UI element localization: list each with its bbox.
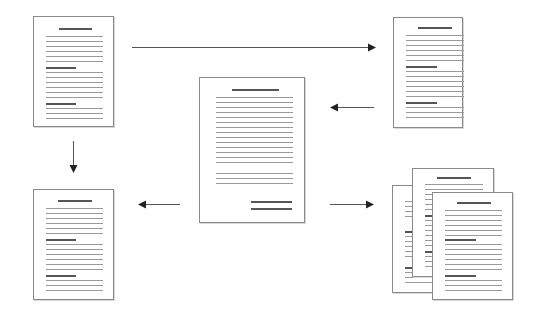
text-line — [46, 213, 103, 214]
text-line — [445, 230, 502, 231]
text-line — [216, 122, 293, 123]
text-line — [46, 233, 103, 234]
text-line — [406, 55, 464, 56]
text-line — [46, 97, 103, 98]
text-line — [46, 113, 103, 114]
text-line — [216, 97, 293, 98]
text-line — [46, 108, 103, 109]
text-line — [406, 117, 464, 118]
text-line — [46, 87, 103, 88]
text-line — [425, 189, 483, 190]
text-line — [406, 35, 464, 36]
document-top-right — [393, 17, 463, 128]
text-line — [216, 137, 293, 138]
text-line — [445, 220, 502, 221]
text-line — [46, 259, 103, 260]
document-top-left — [33, 16, 114, 127]
section-heading-line — [46, 275, 76, 277]
text-line — [216, 173, 293, 174]
text-line — [406, 81, 464, 82]
text-line — [46, 249, 103, 250]
text-line — [216, 132, 293, 133]
text-line — [406, 76, 464, 77]
text-line — [216, 117, 293, 118]
section-heading-line — [445, 239, 476, 241]
document-bottom-left — [33, 189, 114, 300]
text-line — [406, 107, 464, 108]
text-line — [46, 244, 103, 245]
text-line — [46, 285, 103, 286]
doc-title-line — [418, 27, 452, 29]
text-line — [216, 127, 293, 128]
text-line — [406, 45, 464, 46]
text-line — [46, 82, 103, 83]
text-line — [406, 86, 464, 87]
text-line — [46, 36, 103, 37]
text-line — [406, 40, 464, 41]
section-heading-line — [406, 66, 437, 68]
section-heading-line — [46, 239, 76, 241]
arrow-center-to-bottom-left — [136, 199, 182, 210]
arrow-top-left-to-bottom-left — [68, 139, 79, 175]
text-line — [216, 152, 293, 153]
text-line — [445, 264, 502, 265]
text-line — [46, 77, 103, 78]
text-line — [46, 208, 103, 209]
section-heading-line — [46, 67, 76, 69]
text-line — [216, 147, 293, 148]
text-line — [216, 107, 293, 108]
text-line — [216, 162, 293, 163]
text-line — [406, 50, 464, 51]
text-line — [46, 118, 103, 119]
text-line — [216, 178, 293, 179]
doc-title-line — [59, 28, 92, 30]
text-line — [46, 72, 103, 73]
text-line — [46, 269, 103, 270]
text-line — [46, 280, 103, 281]
text-line — [445, 259, 502, 260]
text-line — [216, 102, 293, 103]
text-line — [46, 218, 103, 219]
text-line — [46, 41, 103, 42]
text-line — [445, 285, 502, 286]
text-line — [445, 210, 502, 211]
text-line — [445, 280, 502, 281]
text-line — [445, 235, 502, 236]
text-line — [46, 92, 103, 93]
doc-title-line — [232, 89, 279, 91]
arrow-center-to-document-stack — [328, 199, 376, 210]
arrow-top-left-to-top-right — [130, 42, 378, 53]
text-line — [445, 244, 502, 245]
doc-title-line — [437, 177, 471, 179]
doc-title-line — [457, 202, 491, 204]
text-line — [216, 142, 293, 143]
doc-title-line — [58, 200, 92, 202]
text-line — [216, 112, 293, 113]
section-heading-line — [406, 102, 437, 104]
document-center — [199, 77, 305, 223]
text-line — [216, 183, 293, 184]
text-line — [46, 290, 103, 291]
arrow-top-right-to-center — [328, 102, 376, 113]
text-line — [406, 91, 464, 92]
text-line — [445, 254, 502, 255]
text-line — [445, 290, 502, 291]
section-heading-line — [46, 103, 76, 105]
text-line — [46, 61, 103, 62]
text-line — [445, 269, 502, 270]
section-heading-line — [445, 275, 476, 277]
text-line — [46, 223, 103, 224]
signature-line — [251, 201, 292, 203]
text-line — [46, 46, 103, 47]
signature-line — [251, 208, 292, 210]
text-line — [425, 184, 483, 185]
text-line — [445, 225, 502, 226]
text-line — [406, 60, 464, 61]
text-line — [46, 51, 103, 52]
text-line — [46, 264, 103, 265]
text-line — [406, 71, 464, 72]
text-line — [216, 157, 293, 158]
text-line — [46, 228, 103, 229]
text-line — [46, 254, 103, 255]
stack-page-front — [432, 192, 513, 300]
